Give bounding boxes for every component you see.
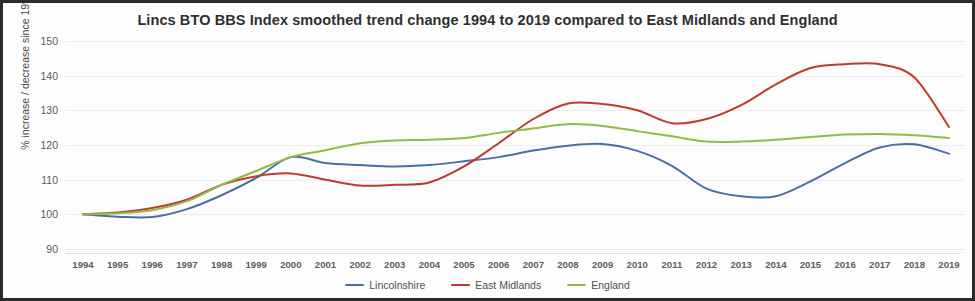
- chart-title: Lincs BTO BBS Index smoothed trend chang…: [3, 12, 972, 28]
- legend-item-east-midlands[interactable]: East Midlands: [451, 279, 541, 291]
- x-axis-tick-label: 2001: [315, 259, 336, 270]
- y-axis-tick-label: 100: [40, 208, 58, 220]
- x-axis-tick-label: 2007: [523, 259, 544, 270]
- x-axis-tick-label: 2004: [419, 259, 440, 270]
- plot-area: 15014013012011010090: [65, 41, 965, 249]
- legend-label: England: [591, 279, 630, 291]
- y-axis-tick-label: 90: [46, 243, 58, 255]
- x-axis-tick-label: 2010: [627, 259, 648, 270]
- y-axis-tick-label: 150: [40, 35, 58, 47]
- x-axis-tick-label: 2019: [938, 259, 959, 270]
- legend-item-lincolnshire[interactable]: Lincolnshire: [345, 279, 425, 291]
- legend-label: East Midlands: [475, 279, 541, 291]
- gridline: 90: [65, 249, 965, 250]
- x-axis-tick-label: 2011: [661, 259, 682, 270]
- series-lines-group: [65, 41, 965, 249]
- series-line-east-midlands: [83, 63, 949, 214]
- chart-legend: LincolnshireEast MidlandsEngland: [3, 279, 972, 291]
- x-axis-tick-label: 2014: [765, 259, 786, 270]
- x-axis-line: [65, 253, 959, 254]
- x-axis-tick-label: 2003: [384, 259, 405, 270]
- series-line-lincolnshire: [83, 144, 949, 218]
- legend-swatch-icon: [451, 284, 470, 286]
- y-axis-tick-label: 120: [40, 139, 58, 151]
- y-axis-tick-label: 110: [41, 174, 58, 186]
- y-axis-title: % increase / decrease since 1994: [19, 0, 31, 151]
- x-axis-tick-label: 1997: [176, 259, 197, 270]
- y-axis-tick-label: 130: [40, 104, 58, 116]
- x-axis-tick-label: 1999: [246, 259, 267, 270]
- y-axis-tick-label: 140: [40, 70, 58, 82]
- x-axis-tick-label: 1998: [211, 259, 232, 270]
- x-axis-tick-label: 2012: [696, 259, 717, 270]
- x-axis-tick-label: 2015: [800, 259, 821, 270]
- x-axis-tick-label: 2018: [904, 259, 925, 270]
- x-axis-tick-label: 2016: [834, 259, 855, 270]
- legend-swatch-icon: [567, 284, 586, 286]
- x-axis-tick-label: 2008: [557, 259, 578, 270]
- chart-figure: Lincs BTO BBS Index smoothed trend chang…: [0, 0, 975, 301]
- legend-swatch-icon: [345, 284, 364, 286]
- chart-canvas: Lincs BTO BBS Index smoothed trend chang…: [3, 3, 972, 298]
- x-axis-tick-label: 2006: [488, 259, 509, 270]
- x-axis-tick-label: 2017: [869, 259, 890, 270]
- x-axis-tick-label: 1995: [107, 259, 128, 270]
- legend-label: Lincolnshire: [369, 279, 425, 291]
- x-axis-tick-label: 2013: [730, 259, 751, 270]
- series-line-england: [83, 124, 949, 214]
- x-axis-tick-label: 2009: [592, 259, 613, 270]
- x-axis-tick-label: 2005: [453, 259, 474, 270]
- x-axis-tick-label: 1996: [142, 259, 163, 270]
- legend-item-england[interactable]: England: [567, 279, 630, 291]
- x-axis-tick-label: 2000: [280, 259, 301, 270]
- x-axis-tick-label: 2002: [349, 259, 370, 270]
- x-axis-tick-label: 1994: [72, 259, 93, 270]
